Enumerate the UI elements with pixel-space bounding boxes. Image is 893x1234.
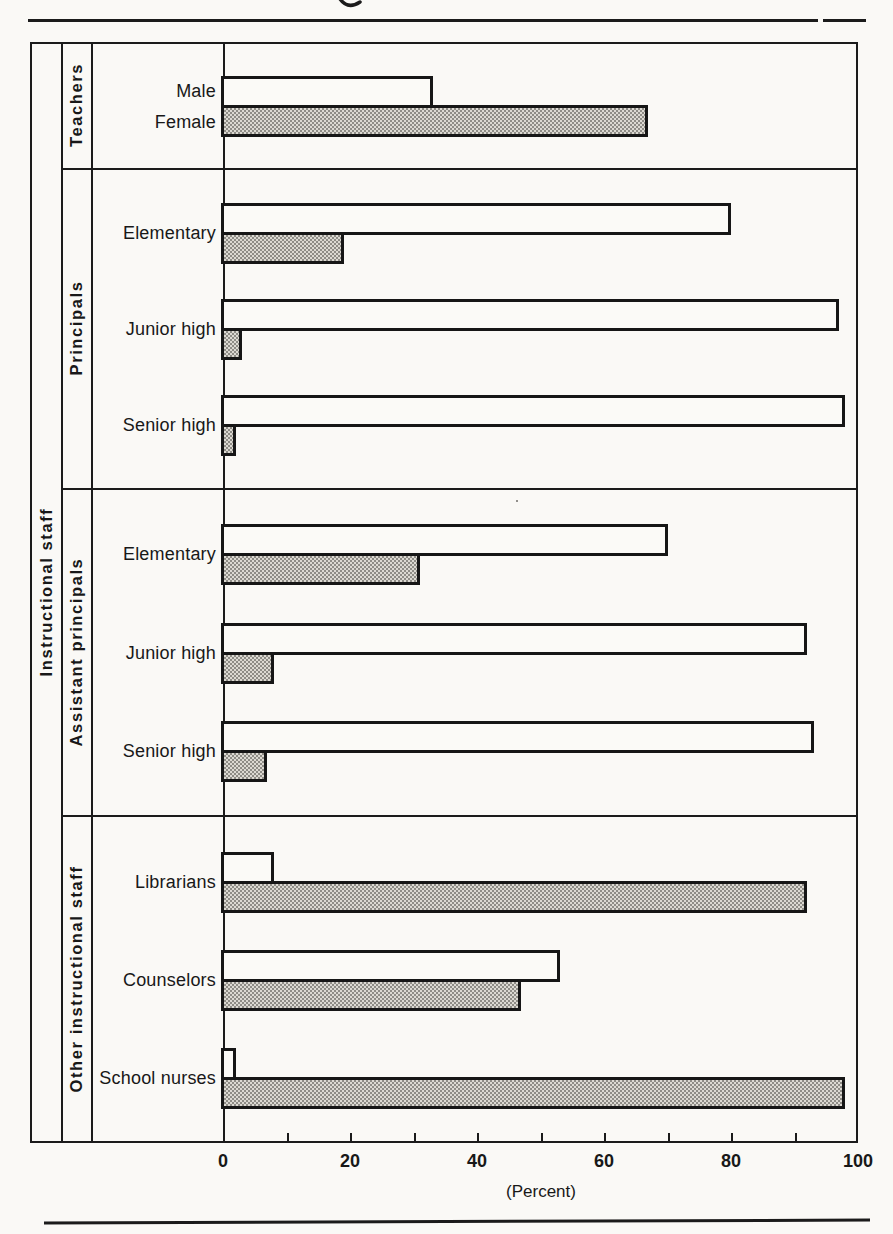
column-line-outer-label <box>61 42 63 1143</box>
section-divider-principals <box>61 168 858 170</box>
group-label-principals: Principals <box>67 281 86 376</box>
row-label-counselors: Counselors <box>123 971 216 989</box>
junior-high-female-bar <box>221 328 242 360</box>
tick-label-80: 80 <box>721 1151 741 1172</box>
section-divider-assistant-principals <box>61 488 858 490</box>
row-label-female: Female <box>155 113 216 131</box>
senior-high-male-bar <box>221 721 814 753</box>
axis-tick-10 <box>287 1133 289 1143</box>
top-rule <box>28 19 818 22</box>
junior-high-female-bar <box>221 652 274 684</box>
teachers-male-bar <box>221 76 433 108</box>
junior-high-male-bar <box>221 299 839 331</box>
tick-label-40: 40 <box>467 1151 487 1172</box>
axis-tick-30 <box>414 1133 416 1143</box>
row-label-elementary: Elementary <box>123 224 216 242</box>
elementary-male-bar <box>221 524 668 556</box>
row-label-junior-high: Junior high <box>126 320 216 338</box>
column-line-group-label <box>91 42 93 1143</box>
teachers-female-bar <box>221 105 648 137</box>
x-axis-label: (Percent) <box>506 1182 576 1202</box>
group-label-assistant-principals: Assistant principals <box>67 557 86 746</box>
row-label-librarians: Librarians <box>135 873 216 891</box>
librarians-male-bar <box>221 852 274 884</box>
senior-high-female-bar <box>221 750 267 782</box>
school-nurses-male-bar <box>221 1048 236 1080</box>
elementary-male-bar <box>221 203 731 235</box>
group-label-teachers: Teachers <box>67 63 86 147</box>
tick-label-0: 0 <box>218 1151 228 1172</box>
elementary-female-bar <box>221 553 420 585</box>
bottom-rule <box>44 1219 870 1225</box>
axis-tick-80 <box>731 1133 733 1143</box>
row-label-male: Male <box>176 82 216 100</box>
scan-speck <box>516 500 518 502</box>
tick-label-60: 60 <box>594 1151 614 1172</box>
senior-high-female-bar <box>221 424 236 456</box>
top-rule-segment <box>823 19 866 22</box>
row-label-junior-high: Junior high <box>126 644 216 662</box>
row-label-senior-high: Senior high <box>123 742 216 760</box>
senior-high-male-bar <box>221 395 845 427</box>
axis-tick-20 <box>350 1133 352 1143</box>
librarians-female-bar <box>221 881 807 913</box>
axis-tick-50 <box>541 1133 543 1143</box>
tick-label-20: 20 <box>340 1151 360 1172</box>
row-label-elementary: Elementary <box>123 545 216 563</box>
row-label-senior-high: Senior high <box>123 416 216 434</box>
outer-group-label: Instructional staff <box>37 508 56 677</box>
section-divider-other-instructional-staff <box>61 815 858 817</box>
elementary-female-bar <box>221 232 344 264</box>
axis-tick-70 <box>668 1133 670 1143</box>
scanned-chart-page: Instructional staff TeachersMaleFemalePr… <box>0 0 893 1234</box>
school-nurses-female-bar <box>221 1077 845 1109</box>
tick-label-100: 100 <box>843 1151 873 1172</box>
counselors-male-bar <box>221 950 560 982</box>
axis-tick-90 <box>795 1133 797 1143</box>
counselors-female-bar <box>221 979 521 1011</box>
truncated-title-fragment <box>338 0 362 9</box>
group-label-other-instructional-staff: Other instructional staff <box>67 865 86 1092</box>
row-label-school-nurses: School nurses <box>99 1069 216 1087</box>
axis-tick-40 <box>477 1133 479 1143</box>
junior-high-male-bar <box>221 623 807 655</box>
axis-tick-60 <box>604 1133 606 1143</box>
